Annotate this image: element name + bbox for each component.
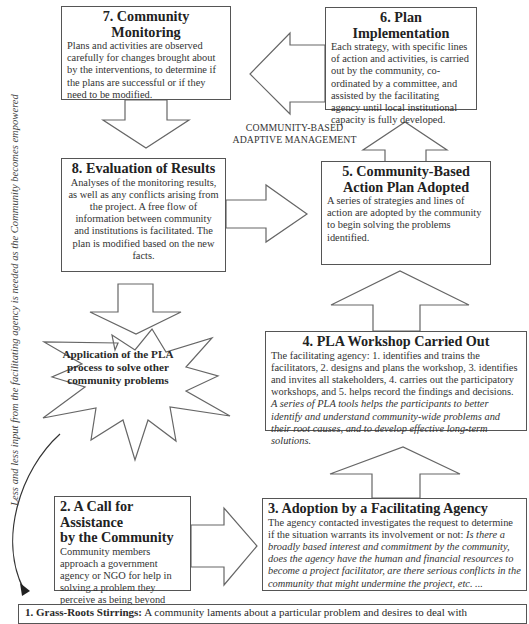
- step-1-grass-roots-stirrings: 1. Grass-Roots Stirrings: A community la…: [18, 604, 527, 624]
- curved-arrowhead-icon: [20, 583, 30, 596]
- step-4-body: The facilitating agency: 1. identifies a…: [271, 350, 521, 399]
- center-label-line2: ADAPTIVE MANAGEMENT: [222, 134, 367, 146]
- side-label-empowerment: Less and less input from the facilitatin…: [9, 94, 20, 506]
- step-5-body: A series of strategies and lines of acti…: [327, 195, 485, 244]
- step-2-title-line2: by the Community: [60, 530, 185, 546]
- step-1-title: 1. Grass-Roots Stirrings:: [25, 606, 142, 618]
- step-8-evaluation-of-results: 8. Evaluation of Results Analyses of the…: [61, 158, 226, 272]
- community-based-adaptive-management-label: COMMUNITY-BASED ADAPTIVE MANAGEMENT: [222, 122, 367, 146]
- step-2-title-line1: 2. A Call for Assistance: [60, 499, 185, 530]
- step-1-body: A community laments about a particular p…: [142, 606, 467, 618]
- step-2-call-for-assistance: 2. A Call for Assistance by the Communit…: [54, 496, 191, 591]
- burst-apply-pla-text: Application of the PLA process to solve …: [58, 348, 178, 388]
- step-6-plan-implementation: 6. Plan Implementation Each strategy, wi…: [325, 7, 477, 110]
- arrow-8-to-5-icon: [226, 185, 307, 242]
- step-3-adoption-facilitating-agency: 3. Adoption by a Facilitating Agency The…: [262, 498, 527, 591]
- step-6-title: 6. Plan Implementation: [331, 10, 471, 41]
- step-4-pla-workshop: 4. PLA Workshop Carried Out The facilita…: [265, 331, 527, 431]
- step-8-title: 8. Evaluation of Results: [67, 161, 220, 177]
- arrow-7-to-8-icon: [103, 100, 189, 148]
- arrow-8-to-burst-icon: [90, 284, 181, 334]
- step-3-title: 3. Adoption by a Facilitating Agency: [268, 501, 521, 517]
- step-8-body: Analyses of the monitoring results, as w…: [67, 177, 220, 262]
- arrow-5-to-6-icon: [363, 122, 447, 162]
- step-4-body-italic: A series of PLA tools helps the particip…: [271, 398, 521, 447]
- arrow-6-to-7-icon: [250, 33, 325, 114]
- step-6-body: Each strategy, with specific lines of ac…: [331, 41, 471, 126]
- curved-connector-arrow-icon: [13, 434, 60, 590]
- arrow-2-to-3-icon: [191, 508, 257, 585]
- step-4-title: 4. PLA Workshop Carried Out: [271, 334, 521, 350]
- step-5-title-line2: Action Plan Adopted: [327, 180, 485, 196]
- arrow-4-to-5-icon: [331, 271, 469, 331]
- step-7-community-monitoring: 7. Community Monitoring Plans and activi…: [61, 6, 231, 100]
- step-7-title: 7. Community Monitoring: [67, 9, 225, 40]
- step-5-title-line1: 5. Community-Based: [327, 164, 485, 180]
- step-7-body: Plans and activities are observed carefu…: [67, 40, 225, 101]
- step-5-action-plan-adopted: 5. Community-Based Action Plan Adopted A…: [321, 161, 491, 265]
- center-label-line1: COMMUNITY-BASED: [222, 122, 367, 134]
- arrow-3-to-4-icon: [330, 447, 460, 498]
